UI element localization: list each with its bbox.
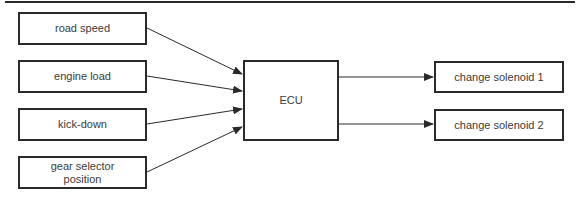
arrow-engine-load-to-ecu <box>147 76 242 91</box>
input-engine-load: engine load <box>18 60 147 93</box>
input-kick-down-label: kick-down <box>58 118 107 131</box>
output-change-solenoid-1: change solenoid 1 <box>434 61 564 93</box>
arrow-road-speed-to-ecu <box>147 28 242 74</box>
input-gear-selector-position: gear selector position <box>18 156 147 189</box>
output-solenoid-2-label: change solenoid 2 <box>454 119 543 132</box>
input-road-speed: road speed <box>18 12 147 45</box>
input-gear-selector-label-line2: position <box>64 173 102 186</box>
input-engine-load-label: engine load <box>54 70 111 83</box>
output-change-solenoid-2: change solenoid 2 <box>434 109 564 141</box>
ecu-label: ECU <box>279 94 302 107</box>
arrow-kick-down-to-ecu <box>147 109 242 124</box>
ecu-block: ECU <box>243 60 339 141</box>
input-gear-selector-label-line1: gear selector <box>51 160 115 173</box>
arrow-gear-selector-to-ecu <box>147 127 242 172</box>
output-solenoid-1-label: change solenoid 1 <box>454 71 543 84</box>
input-road-speed-label: road speed <box>55 22 110 35</box>
input-kick-down: kick-down <box>18 108 147 141</box>
